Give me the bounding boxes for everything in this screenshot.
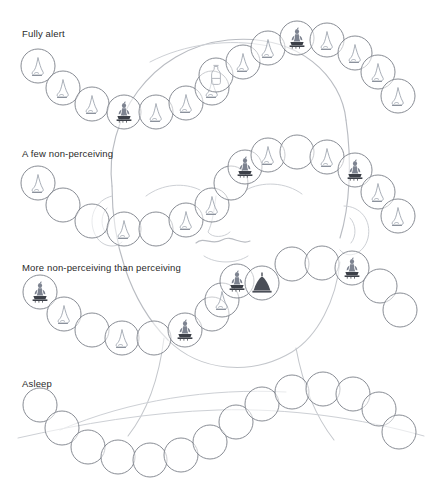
- bead: [280, 21, 314, 55]
- bead: [245, 387, 279, 421]
- bead: [46, 71, 80, 105]
- bead: [133, 443, 167, 477]
- bead: [71, 430, 105, 464]
- bead: [75, 87, 109, 121]
- bead-circle: [383, 293, 417, 327]
- bead: [245, 266, 279, 300]
- bead: [381, 199, 415, 233]
- bead: [137, 321, 171, 355]
- bead: [139, 95, 173, 129]
- bead: [381, 79, 415, 113]
- bead: [306, 372, 340, 406]
- bead-row-fully-alert: [21, 21, 415, 129]
- bead-chains: [0, 0, 436, 485]
- bead-circle: [46, 188, 80, 222]
- bead-circle: [139, 212, 173, 246]
- bead-circle: [101, 440, 135, 474]
- bead-circle: [75, 87, 109, 121]
- bead-circle: [275, 375, 309, 409]
- bead-circle: [107, 212, 141, 246]
- bead-circle: [306, 372, 340, 406]
- bead-circle: [245, 387, 279, 421]
- bead: [383, 293, 417, 327]
- bead-circle: [382, 415, 416, 449]
- bead: [280, 135, 314, 169]
- bead-circle: [105, 321, 139, 355]
- bead-circle: [71, 430, 105, 464]
- bead: [275, 375, 309, 409]
- bead: [75, 313, 109, 347]
- diagram-canvas: Fully alert A few non-perceiving More no…: [0, 0, 436, 485]
- bead: [46, 188, 80, 222]
- bead-circle: [137, 321, 171, 355]
- bead-circle: [275, 247, 309, 281]
- bead: [107, 212, 141, 246]
- bead-row-asleep: [23, 372, 416, 477]
- bead-circle: [75, 313, 109, 347]
- bead-circle: [46, 71, 80, 105]
- bead: [382, 415, 416, 449]
- bead: [75, 204, 109, 238]
- bead-circle: [381, 199, 415, 233]
- row-label-fully-alert: Fully alert: [22, 28, 65, 39]
- row-label-a-few-non-perceiving: A few non-perceiving: [22, 148, 113, 159]
- bead: [105, 321, 139, 355]
- bead-circle: [381, 79, 415, 113]
- bead-circle: [133, 443, 167, 477]
- row-label-asleep: Asleep: [22, 378, 52, 389]
- row-label-more-non-perceiving-than-perceiving: More non-perceiving than perceiving: [22, 262, 181, 273]
- bead: [139, 212, 173, 246]
- bead-circle: [280, 135, 314, 169]
- bead-circle: [305, 246, 339, 280]
- bead-circle: [75, 204, 109, 238]
- bead: [101, 440, 135, 474]
- bead-circle: [139, 95, 173, 129]
- bead: [305, 246, 339, 280]
- bead: [107, 95, 141, 129]
- bead: [275, 247, 309, 281]
